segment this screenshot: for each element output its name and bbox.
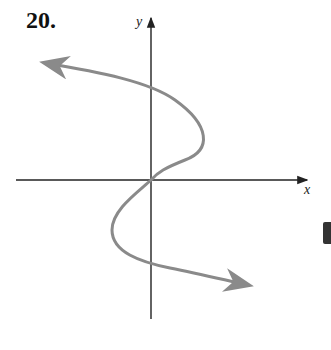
- page-edge-mark: [323, 222, 331, 244]
- graph: [0, 0, 331, 350]
- x-axis-label: x: [304, 182, 310, 198]
- y-axis-label: y: [136, 14, 142, 30]
- curve: [45, 63, 248, 285]
